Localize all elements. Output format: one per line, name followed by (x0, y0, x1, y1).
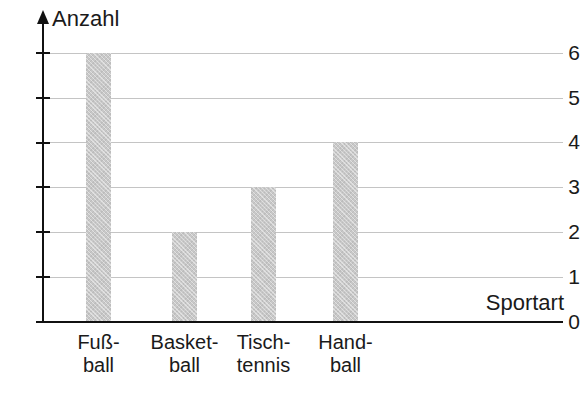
bar-fussball (86, 53, 111, 322)
gridline-4 (43, 142, 563, 143)
category-label-handball: Hand- ball (295, 331, 396, 377)
y-tick-label-4: 4 (554, 131, 580, 152)
y-tick-label-6: 6 (554, 42, 580, 63)
gridline-5 (43, 98, 563, 99)
y-tick-5 (36, 97, 50, 99)
bar-handball (333, 142, 358, 322)
x-axis-line (36, 321, 563, 323)
gridline-6 (43, 53, 563, 54)
y-tick-1 (36, 276, 50, 278)
y-tick-label-2: 2 (554, 221, 580, 242)
x-axis-title: Sportart (486, 291, 564, 315)
y-tick-2 (36, 231, 50, 233)
gridline-2 (43, 232, 563, 233)
y-tick-3 (36, 186, 50, 188)
y-tick-label-3: 3 (554, 176, 580, 197)
bar-tischtennis (251, 187, 276, 322)
bar-chart: 6 5 4 3 2 1 0 Fuß- ball Basket- ball Tis… (0, 0, 580, 396)
y-tick-label-1: 1 (554, 266, 580, 287)
bar-basketball (172, 232, 197, 322)
gridline-1 (43, 277, 563, 278)
y-tick-label-5: 5 (554, 87, 580, 108)
y-tick-6 (36, 52, 50, 54)
y-tick-4 (36, 142, 50, 144)
gridline-3 (43, 187, 563, 188)
y-axis-title: Anzahl (52, 7, 119, 31)
